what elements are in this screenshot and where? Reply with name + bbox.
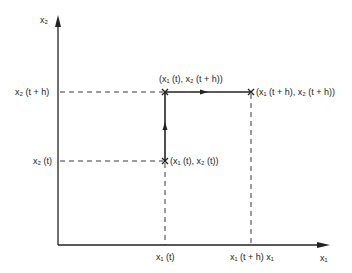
y-axis-arrow-icon [55, 15, 61, 27]
tick-y-x2-t: x₂ (t) [33, 156, 52, 166]
point-end-label: (x₁ (t + h), x₂ (t + h)) [256, 87, 335, 97]
x-axis-label: x₁ [320, 253, 328, 263]
tick-y-x2-t-plus-h: x₂ (t + h) [15, 87, 49, 97]
y-axis-label: x₂ [40, 15, 48, 25]
diagram-canvas [0, 0, 352, 273]
x-axis-arrow-icon [317, 242, 330, 248]
tick-x-x1-t: x₁ (t) [156, 252, 175, 262]
point-middle-label: (x₁ (t), x₂ (t + h)) [159, 74, 223, 84]
right-arrow-icon [200, 90, 208, 95]
point-start-label: (x₁ (t), x₂ (t)) [170, 156, 219, 166]
tick-x-x1-t-plus-h: x₁ (t + h) x₁ [230, 252, 274, 262]
up-arrow-icon [163, 122, 168, 130]
